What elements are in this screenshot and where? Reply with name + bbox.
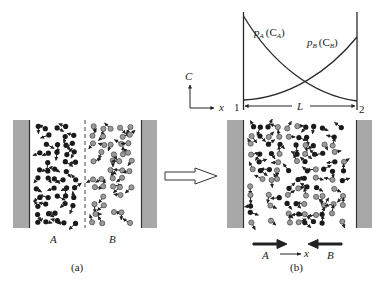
particle-a <box>35 212 40 217</box>
particle-a <box>61 220 66 225</box>
particle-a <box>319 220 324 225</box>
particle-a <box>64 152 69 157</box>
particles-panel-a <box>33 123 135 229</box>
particle-a <box>63 159 68 164</box>
particle-a <box>257 151 262 156</box>
particle-b <box>102 142 107 147</box>
particle-b <box>277 151 282 156</box>
particle-a <box>52 185 57 190</box>
particle-a <box>63 124 68 129</box>
particle-b <box>117 159 122 164</box>
particle-a <box>35 220 40 225</box>
particle-b <box>320 193 325 198</box>
particle-b <box>110 176 115 181</box>
particle-b <box>340 219 345 224</box>
particle-b <box>248 141 253 146</box>
particle-a <box>265 124 270 129</box>
particle-b <box>296 220 301 225</box>
particle-a <box>44 142 49 147</box>
particle-a <box>45 160 50 165</box>
particle-a <box>251 124 256 129</box>
particle-a <box>277 142 282 147</box>
particle-b <box>93 211 98 216</box>
particle-b <box>108 142 113 147</box>
hollow-right-arrow-icon <box>165 168 217 184</box>
particle-a <box>35 175 40 180</box>
particle-b <box>276 160 281 165</box>
particle-a <box>303 125 308 130</box>
particle-b <box>120 152 125 157</box>
particle-a <box>63 134 68 139</box>
particle-b <box>99 149 104 154</box>
particle-a <box>332 159 337 164</box>
particle-a <box>269 151 274 156</box>
particle-a <box>257 133 262 138</box>
particle-b <box>249 134 254 139</box>
particle-a <box>64 169 69 174</box>
particles-panel-b <box>245 119 350 230</box>
particle-b <box>322 142 327 147</box>
particle-b <box>120 134 125 139</box>
particle-b <box>340 202 345 207</box>
particle-b <box>118 192 123 197</box>
particle-b <box>101 184 106 189</box>
particle-a <box>46 132 51 137</box>
particle-a <box>72 149 77 154</box>
particle-b <box>313 175 318 180</box>
particle-b <box>126 141 131 146</box>
particle-a <box>248 203 253 208</box>
particle-a <box>321 167 326 172</box>
particle-a <box>36 124 41 129</box>
particle-b <box>303 193 308 198</box>
particle-a <box>277 195 282 200</box>
y-axis-label: C <box>185 70 193 82</box>
flux-label-a: A <box>261 249 269 261</box>
particle-b <box>287 220 292 225</box>
particle-a <box>46 211 51 216</box>
boundary-label-1: 1 <box>234 101 240 113</box>
particle-b <box>101 134 106 139</box>
particle-b <box>330 177 335 182</box>
particle-b <box>332 186 337 191</box>
particle-b <box>266 134 271 139</box>
particle-b <box>101 194 106 199</box>
particle-a <box>73 160 78 165</box>
particle-b <box>313 194 318 199</box>
particle-b <box>250 167 255 172</box>
particle-a <box>62 201 67 206</box>
particle-b <box>295 124 300 129</box>
particle-b <box>268 218 273 223</box>
particle-a <box>296 211 301 216</box>
particle-a <box>293 142 298 147</box>
particle-b <box>110 184 115 189</box>
particle-a <box>43 201 48 206</box>
particle-a <box>286 168 291 173</box>
particle-b <box>111 152 116 157</box>
particle-a <box>256 159 261 164</box>
curve-pa-label: pA(CA) <box>253 26 285 40</box>
particle-a <box>330 169 335 174</box>
particle-a <box>55 194 60 199</box>
left-wall <box>227 120 243 228</box>
particle-a <box>55 125 60 130</box>
particle-b <box>99 176 104 181</box>
particle-b <box>129 185 134 190</box>
particle-b <box>329 211 334 216</box>
diffusion-diagram: A B (a) A B x (b) pA(CA) pB(CB) <box>0 0 387 288</box>
right-wall <box>357 120 372 228</box>
particle-b <box>101 126 106 131</box>
particle-b <box>118 125 123 130</box>
particle-a <box>35 204 40 209</box>
particle-b <box>260 176 265 181</box>
particle-a <box>294 201 299 206</box>
particle-b <box>285 126 290 131</box>
particle-b <box>119 210 124 215</box>
particle-a <box>302 220 307 225</box>
particle-a <box>73 177 78 182</box>
particle-b <box>303 143 308 148</box>
particle-b <box>332 149 337 154</box>
particle-b <box>90 177 95 182</box>
caption-b: (b) <box>290 261 303 274</box>
particle-a <box>37 167 42 172</box>
particle-b <box>110 158 115 163</box>
